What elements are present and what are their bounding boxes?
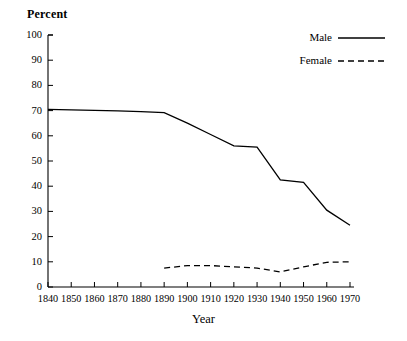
y-tick-label: 20 bbox=[16, 232, 42, 243]
y-tick-label: 30 bbox=[16, 206, 42, 217]
y-tick-label: 40 bbox=[16, 181, 42, 192]
chart-figure: Percent Year 0102030405060708090100 1840… bbox=[0, 0, 407, 341]
y-tick-label: 0 bbox=[16, 282, 42, 293]
y-tick-label: 50 bbox=[16, 156, 42, 167]
series-layer bbox=[48, 109, 350, 272]
legend-label-female: Female bbox=[262, 55, 332, 66]
y-tick-label: 100 bbox=[16, 30, 42, 41]
y-tick-label: 90 bbox=[16, 55, 42, 66]
y-tick-label: 70 bbox=[16, 106, 42, 117]
series-line-male bbox=[48, 109, 350, 225]
x-tick-label: 1970 bbox=[332, 294, 368, 304]
series-line-female bbox=[164, 262, 350, 272]
legend-label-male: Male bbox=[262, 32, 332, 43]
legend-lines bbox=[338, 38, 385, 61]
chart-plot-area bbox=[0, 0, 407, 341]
y-tick-label: 10 bbox=[16, 257, 42, 268]
y-tick-label: 60 bbox=[16, 131, 42, 142]
axes-layer bbox=[48, 35, 354, 287]
y-tick-label: 80 bbox=[16, 80, 42, 91]
